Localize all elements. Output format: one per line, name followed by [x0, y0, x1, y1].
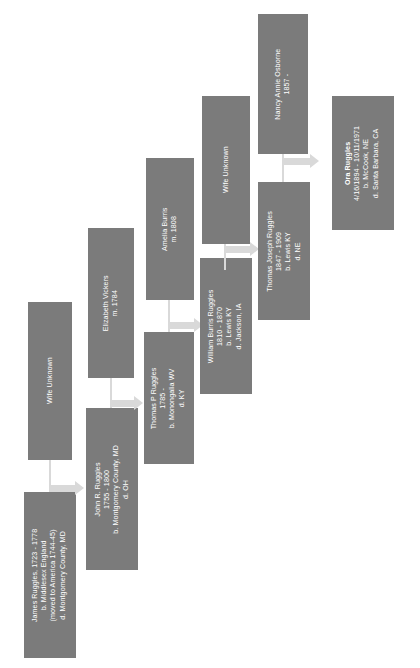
node-text-amelia-burris: Amelia Burrism. 1808	[161, 207, 179, 250]
node-john-r-ruggles: John R. Ruggles1755 - 1800b. Montgomery …	[86, 408, 138, 570]
node-line: b. Monongalia WV	[169, 367, 178, 429]
node-text-james-ruggles: James Ruggles, 1723 - 1778b. Middlesex E…	[32, 528, 69, 621]
node-text-elizabeth-vickers: Elizabeth Vickersm. 1784	[102, 275, 120, 331]
node-text-nancy-annie-osborne: Nancy Annie Osborne1857 -	[274, 49, 292, 120]
node-line: m. 1784	[111, 275, 120, 331]
node-line: b. Middlesex England	[41, 528, 50, 621]
node-line: Elizabeth Vickers	[102, 275, 111, 331]
node-line: 1755 - 1800	[103, 445, 112, 534]
node-wife-unknown-2: Wife Unknown	[202, 96, 250, 244]
node-thomas-joseph-ruggles: Thomas Joseph Ruggles1847 - 1909b. Lewis…	[258, 182, 310, 320]
node-line: Thomas Joseph Ruggles	[266, 211, 275, 292]
node-line: b. Lewis KY	[284, 211, 293, 292]
family-tree-diagram: Wife Unknown James Ruggles, 1723 - 1778b…	[0, 0, 420, 668]
connector-arrow-head-gen2	[134, 396, 143, 410]
node-nancy-annie-osborne: Nancy Annie Osborne1857 -	[258, 14, 308, 154]
connector-arrow-body-gen4	[224, 246, 250, 253]
node-text-thomas-joseph-ruggles: Thomas Joseph Ruggles1847 - 1909b. Lewis…	[266, 211, 303, 292]
connector-arrow-body-gen3	[168, 322, 194, 329]
node-text-thomas-p-ruggles: Thomas P Ruggles1785 -b. Monongalia WVd.…	[151, 367, 188, 429]
node-line: 1810 - 1870	[217, 289, 226, 363]
node-elizabeth-vickers: Elizabeth Vickersm. 1784	[88, 228, 134, 378]
node-line: (moved to America 1744-45)	[50, 528, 59, 621]
node-ora-ruggles: Ora Ruggles4/16/1894 - 10/11/1971b. McCo…	[332, 96, 394, 230]
node-line: m. 1808	[170, 207, 179, 250]
node-line: 1785 -	[160, 367, 169, 429]
node-line: 1857 -	[283, 49, 292, 120]
node-text-wife-unknown-1: Wife Unknown	[45, 358, 54, 405]
node-thomas-p-ruggles: Thomas P Ruggles1785 -b. Monongalia WVd.…	[144, 332, 194, 464]
node-line: John R. Ruggles	[94, 445, 103, 534]
connector-arrow-head-gen1	[75, 481, 84, 495]
node-line: d. KY	[178, 367, 187, 429]
node-line: b. Lewis KY	[226, 289, 235, 363]
node-line: Nancy Annie Osborne	[274, 49, 283, 120]
node-line: 1847 - 1909	[275, 211, 284, 292]
node-line: d. NE	[293, 211, 302, 292]
node-text-john-r-ruggles: John R. Ruggles1755 - 1800b. Montgomery …	[94, 445, 131, 534]
node-amelia-burris: Amelia Burrism. 1808	[146, 158, 194, 300]
node-line: d. Jackson, IA	[235, 289, 244, 363]
node-line: Wife Unknown	[221, 147, 230, 194]
node-line: Amelia Burris	[161, 207, 170, 250]
node-line: James Ruggles, 1723 - 1778	[32, 528, 41, 621]
node-line: William Burris Ruggles	[208, 289, 217, 363]
connector-arrow-head-gen5	[310, 154, 319, 168]
node-text-wife-unknown-2: Wife Unknown	[221, 147, 230, 194]
connector-arrow-body-gen2	[110, 400, 134, 407]
connector-arrow-body-gen1	[49, 485, 75, 492]
connector-arrow-body-gen5	[282, 158, 310, 165]
node-line: d. Montgomery County, MD	[59, 528, 68, 621]
node-william-burris-ruggles: William Burris Ruggles1810 - 1870b. Lewi…	[200, 258, 252, 394]
node-line: d. Santa Barbara, CA	[372, 125, 381, 200]
node-james-ruggles: James Ruggles, 1723 - 1778b. Middlesex E…	[24, 492, 76, 658]
node-line: d. OH	[121, 445, 130, 534]
node-text-william-burris-ruggles: William Burris Ruggles1810 - 1870b. Lewi…	[208, 289, 245, 363]
node-line: b. Montgomery County, MD	[112, 445, 121, 534]
node-line: Wife Unknown	[45, 358, 54, 405]
node-line: Thomas P Ruggles	[151, 367, 160, 429]
node-wife-unknown-1: Wife Unknown	[28, 302, 72, 460]
node-text-ora-ruggles: Ora Ruggles4/16/1894 - 10/11/1971b. McCo…	[345, 125, 382, 200]
